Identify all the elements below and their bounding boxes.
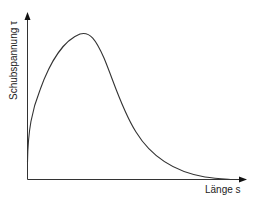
- y-axis-arrow-icon: [25, 12, 31, 20]
- x-axis-arrow-icon: [239, 177, 247, 183]
- shear-stress-diagram: Schubspannung τ Länge s: [0, 0, 262, 206]
- y-axis-label: Schubspannung τ: [8, 21, 19, 100]
- shear-stress-curve: [28, 33, 233, 179]
- diagram-graphic: [0, 0, 262, 206]
- x-axis-label: Länge s: [205, 184, 241, 195]
